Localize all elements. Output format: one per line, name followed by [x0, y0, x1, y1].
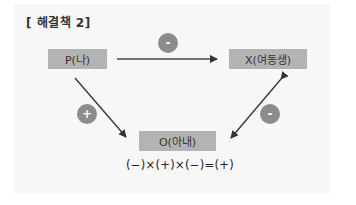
sign-minus-icon: -: [158, 33, 178, 53]
formula: (−)×(+)×(−)=(+): [120, 158, 240, 172]
node-o-label: O(아내): [159, 133, 196, 149]
sign-plus-icon: +: [77, 104, 97, 124]
node-o: O(아내): [139, 131, 216, 151]
arrows-layer: [0, 0, 356, 205]
node-x: X(여동생): [229, 49, 307, 69]
sign-minus-icon: -: [260, 104, 280, 124]
node-x-label: X(여동생): [245, 51, 291, 67]
node-p-label: P(나): [65, 51, 90, 67]
node-p: P(나): [48, 49, 107, 69]
